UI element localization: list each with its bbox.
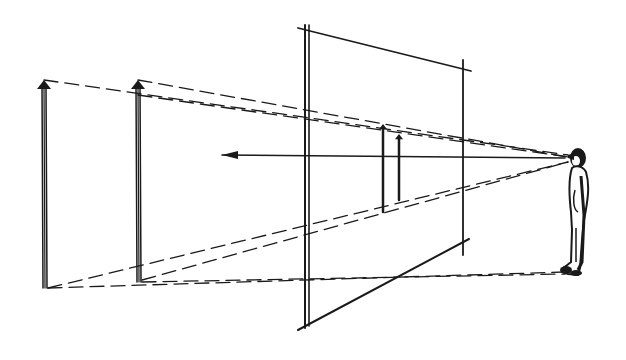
projection-ray (48, 162, 568, 288)
observer-eye (568, 153, 574, 160)
observer-figure (560, 148, 588, 276)
diagram-svg (0, 0, 626, 360)
sight-arrowhead-icon (222, 151, 238, 159)
projection-ray (142, 274, 565, 282)
pole-shaft (44, 86, 45, 288)
perspective-diagram (0, 0, 626, 360)
projection-ray (48, 272, 565, 288)
projection-ray (142, 162, 568, 280)
projected-arrowhead-icon (395, 134, 403, 139)
observer-foot (570, 270, 582, 276)
pole-shaft (136, 86, 137, 282)
pole-shaft (46, 86, 47, 288)
pole-shaft (140, 86, 141, 282)
sight-line (222, 155, 565, 158)
picture-plane (298, 25, 471, 330)
projection-ray (138, 95, 568, 157)
pole-shaft (42, 86, 43, 288)
plane-top-edge (298, 28, 471, 71)
projection-ray (138, 80, 568, 157)
pole-shaft (138, 86, 139, 282)
pole-arrowhead-icon (37, 80, 51, 89)
object-poles (37, 80, 145, 288)
projected-poles (379, 124, 403, 212)
sight-line-arrow (222, 151, 565, 159)
plane-bottom-edge (298, 239, 469, 330)
